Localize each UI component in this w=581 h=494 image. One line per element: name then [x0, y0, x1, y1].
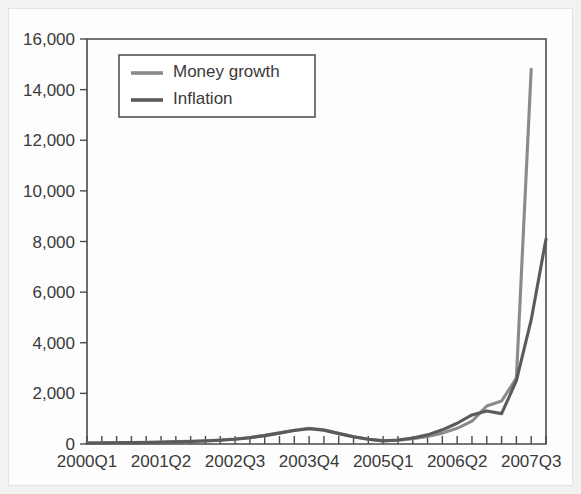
x-tick-label: 2007Q3 [501, 452, 562, 471]
y-axis-ticks: 02,0004,0006,0008,00010,00012,00014,0001… [23, 30, 87, 454]
y-tick-label: 2,000 [32, 384, 75, 403]
x-tick-label: 2005Q1 [353, 452, 414, 471]
x-tick-label: 2000Q1 [57, 452, 118, 471]
series-line [87, 69, 531, 443]
chart-card: 02,0004,0006,0008,00010,00012,00014,0001… [8, 8, 573, 486]
data-series-group [87, 69, 546, 443]
y-tick-label: 12,000 [23, 131, 75, 150]
chart-legend: Money growthInflation [119, 55, 315, 117]
y-tick-label: 16,000 [23, 30, 75, 49]
y-tick-label: 6,000 [32, 283, 75, 302]
legend-label: Money growth [173, 62, 280, 81]
line-chart: 02,0004,0006,0008,00010,00012,00014,0001… [9, 9, 574, 487]
series-line [87, 239, 546, 443]
x-tick-label: 2001Q2 [131, 452, 192, 471]
legend-label: Inflation [173, 89, 233, 108]
x-tick-label: 2006Q2 [427, 452, 488, 471]
y-tick-label: 8,000 [32, 233, 75, 252]
y-tick-label: 14,000 [23, 81, 75, 100]
x-tick-label: 2002Q3 [205, 452, 266, 471]
chart-canvas: 02,0004,0006,0008,00010,00012,00014,0001… [9, 9, 574, 487]
x-tick-label: 2003Q4 [279, 452, 340, 471]
y-tick-label: 10,000 [23, 182, 75, 201]
y-tick-label: 4,000 [32, 334, 75, 353]
